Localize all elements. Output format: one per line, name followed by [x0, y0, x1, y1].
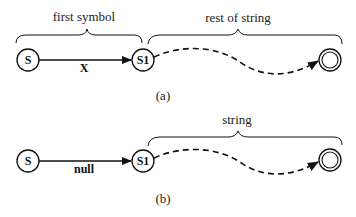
- svg-text:S1: S1: [137, 53, 150, 67]
- svg-text:S: S: [25, 154, 32, 168]
- caption-a: (a): [156, 88, 170, 103]
- string-brace: [148, 131, 342, 146]
- accepting-state: [319, 49, 341, 71]
- caption-b: (b): [155, 191, 170, 206]
- state-s: S: [17, 49, 39, 71]
- string-label: string: [222, 112, 252, 127]
- automaton-figure: first symbol rest of string S X S1 (a) s…: [0, 0, 356, 217]
- rest-of-string-label: rest of string: [205, 10, 271, 25]
- state-s1: S1: [132, 49, 154, 71]
- diagram-a: first symbol rest of string S X S1 (a): [16, 9, 342, 103]
- transition-label: null: [74, 162, 95, 176]
- first-symbol-brace: [16, 29, 142, 43]
- state-s1: S1: [132, 150, 154, 172]
- dashed-path: [154, 149, 318, 174]
- svg-text:S: S: [25, 53, 32, 67]
- svg-text:S1: S1: [137, 154, 150, 168]
- dashed-path: [154, 49, 318, 74]
- transition-label: X: [80, 61, 89, 75]
- state-s: S: [17, 150, 39, 172]
- rest-of-string-brace: [148, 29, 342, 44]
- first-symbol-label: first symbol: [53, 9, 116, 24]
- accepting-state: [319, 149, 341, 171]
- diagram-b: string S null S1 (b): [17, 112, 342, 206]
